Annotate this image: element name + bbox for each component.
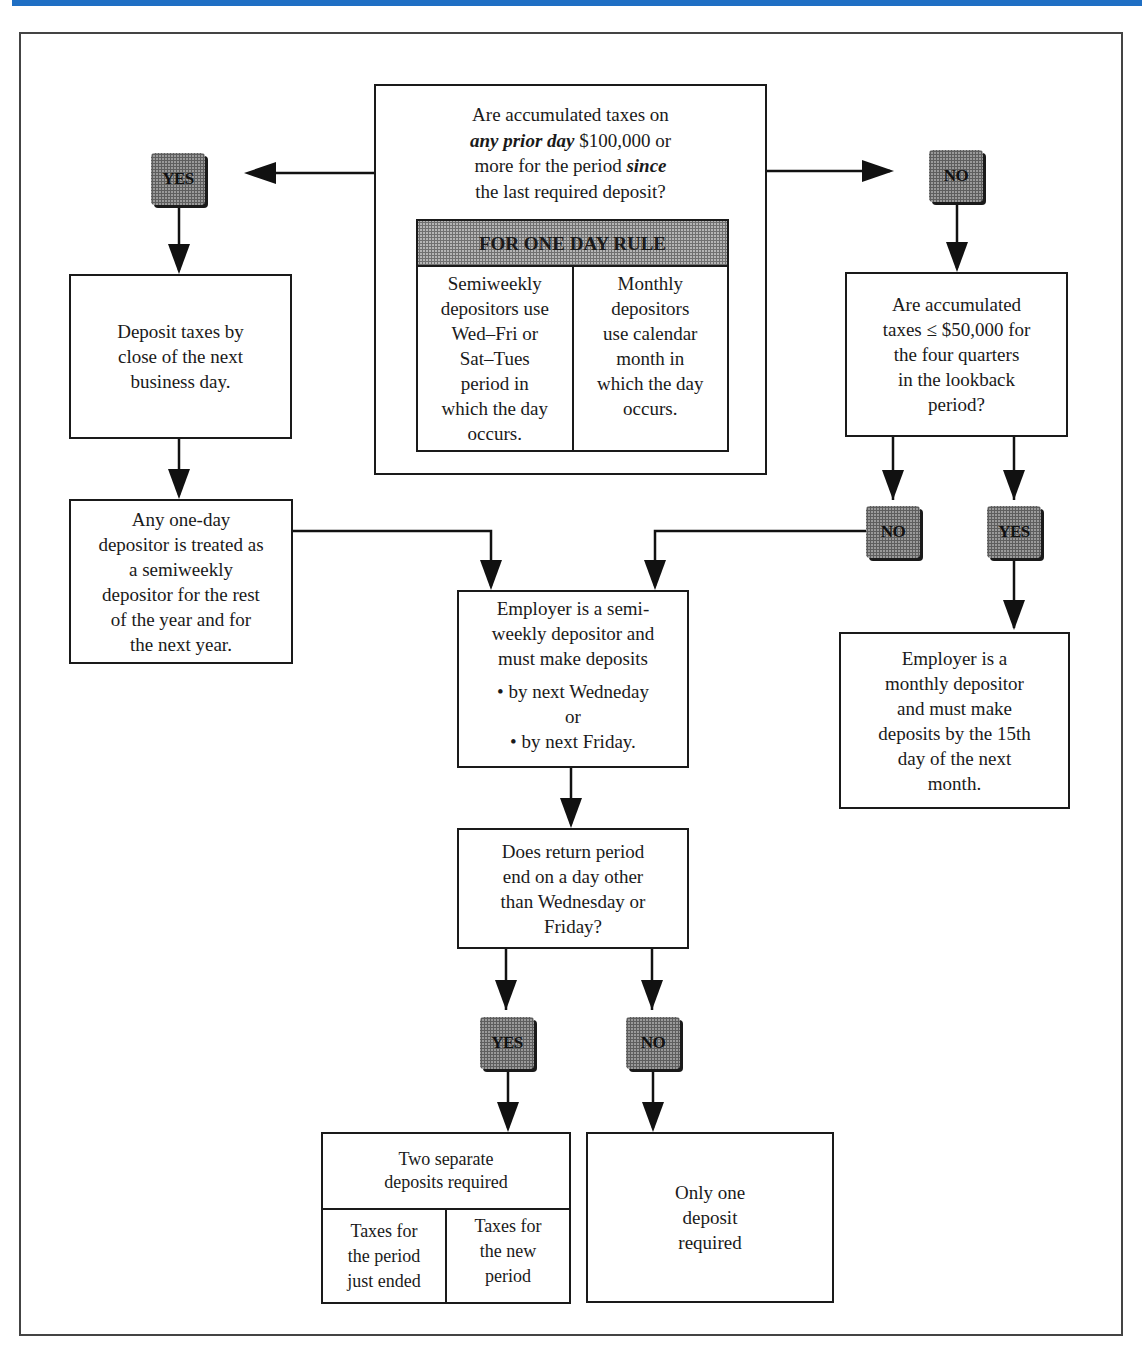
one-deposit-box: Only one deposit required [586, 1132, 834, 1303]
yes-badge-return-period: YES [480, 1017, 534, 1069]
main-question-fragment: more for the period [474, 155, 626, 176]
main-question-text: Are accumulated taxes on any prior day $… [470, 102, 671, 204]
main-question-fragment: $100,000 or [574, 130, 671, 151]
deposit-next-day-box: Deposit taxes by close of the next busin… [69, 274, 292, 439]
no-badge-any-prior-day: NO [929, 150, 983, 202]
emphasis-any-prior-day: any prior day [470, 130, 575, 151]
two-deposits-title: Two separate deposits required [323, 1134, 569, 1210]
main-question-line: the last required deposit? [470, 179, 671, 205]
return-period-question-text: Does return period end on a day other th… [501, 839, 646, 939]
main-question-box: Are accumulated taxes on any prior day $… [374, 84, 767, 475]
semiweekly-deadline-options: • by next Wedneday or • by next Friday. [497, 679, 649, 754]
two-deposits-box: Two separate deposits required Taxes for… [321, 1132, 571, 1304]
no-badge-lookback: NO [866, 506, 920, 558]
main-question-line: any prior day $100,000 or [470, 128, 671, 154]
main-question-line: Are accumulated taxes on [470, 102, 671, 128]
one-deposit-text: Only one deposit required [675, 1180, 745, 1255]
lookback-question-box: Are accumulated taxes ≤ $50,000 for the … [845, 272, 1068, 437]
one-day-rule-table: FOR ONE DAY RULE Semiweekly depositors u… [416, 219, 729, 452]
deposit-next-day-text: Deposit taxes by close of the next busin… [117, 319, 244, 394]
one-day-rule-body: Semiweekly depositors use Wed–Fri or Sat… [418, 267, 727, 450]
emphasis-since: since [626, 155, 666, 176]
return-period-question-box: Does return period end on a day other th… [457, 828, 689, 949]
taxes-new-period: Taxes for the new period [447, 1210, 569, 1302]
semiweekly-rule-cell: Semiweekly depositors use Wed–Fri or Sat… [418, 267, 574, 450]
monthly-rule-cell: Monthly depositors use calendar month in… [574, 267, 728, 450]
monthly-depositor-box: Employer is a monthly depositor and must… [839, 632, 1070, 809]
main-question-line: more for the period since [470, 153, 671, 179]
two-deposits-split: Taxes for the period just ended Taxes fo… [323, 1210, 569, 1302]
no-badge-return-period: NO [626, 1017, 680, 1069]
yes-badge-any-prior-day: YES [151, 153, 205, 205]
one-day-rule-title: FOR ONE DAY RULE [418, 221, 727, 267]
yes-badge-lookback: YES [987, 506, 1041, 558]
one-day-depositor-text: Any one-day depositor is treated as a se… [98, 507, 263, 657]
monthly-depositor-text: Employer is a monthly depositor and must… [878, 646, 1031, 796]
lookback-question-text: Are accumulated taxes ≤ $50,000 for the … [883, 292, 1031, 417]
semiweekly-depositor-text: Employer is a semi- weekly depositor and… [492, 596, 655, 671]
taxes-period-just-ended: Taxes for the period just ended [323, 1210, 447, 1302]
one-day-depositor-box: Any one-day depositor is treated as a se… [69, 499, 293, 664]
semiweekly-depositor-box: Employer is a semi- weekly depositor and… [457, 590, 689, 768]
